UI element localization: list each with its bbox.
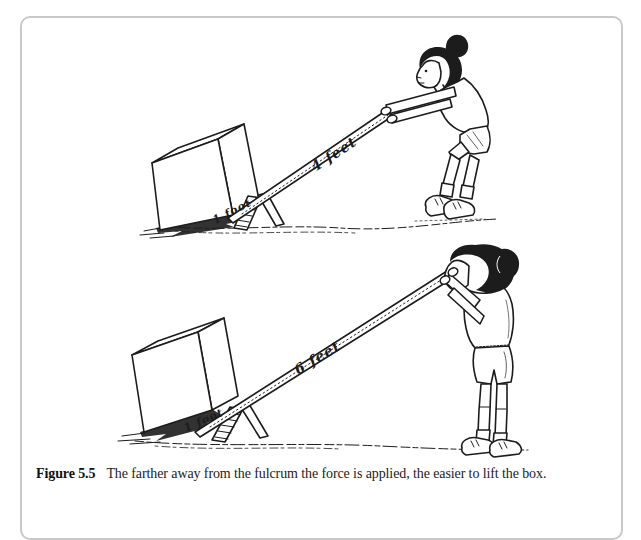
back-shin bbox=[463, 155, 479, 188]
figure-caption: Figure 5.5The farther away from the fulc… bbox=[36, 466, 596, 482]
sock bbox=[460, 185, 474, 199]
lever-length-label: 6 feet bbox=[291, 338, 343, 378]
ground-hatch bbox=[155, 446, 340, 449]
girl-standing bbox=[439, 244, 522, 457]
front-leg bbox=[478, 384, 491, 433]
caption-label: Figure 5.5 bbox=[36, 466, 95, 481]
lever-illustration-4ft: 4 feet 1 foot bbox=[130, 25, 590, 240]
girl-crouching bbox=[380, 35, 490, 219]
shoe bbox=[444, 200, 475, 219]
lever-illustration-6ft: 6 feet 1 foot bbox=[100, 240, 580, 470]
caption-text: The farther away from the fulcrum the fo… bbox=[106, 466, 546, 481]
lever-length-label: 4 feet bbox=[308, 133, 359, 174]
front-shin bbox=[443, 154, 460, 186]
back-leg bbox=[495, 384, 507, 436]
eye bbox=[425, 70, 428, 73]
sock bbox=[440, 183, 454, 197]
shoe bbox=[490, 440, 522, 457]
ponytail bbox=[446, 35, 468, 58]
